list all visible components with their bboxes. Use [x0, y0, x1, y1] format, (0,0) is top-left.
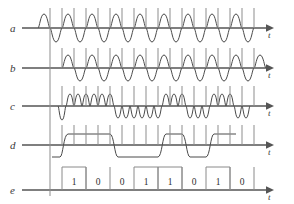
row-label-b: b — [10, 62, 16, 74]
row-label-c: c — [10, 100, 15, 112]
bit-value: 1 — [72, 177, 77, 187]
bit-value: 0 — [240, 177, 245, 187]
bit-value: 0 — [120, 177, 125, 187]
row-label-a: a — [10, 22, 16, 34]
axis-label-b: t — [268, 70, 271, 80]
axis-label-c: t — [268, 108, 271, 118]
axis-label-d: t — [268, 147, 271, 157]
bit-value: 1 — [216, 177, 221, 187]
row-label-e: e — [10, 184, 15, 196]
waveform-c — [58, 94, 250, 120]
bit-value: 0 — [96, 177, 101, 187]
signal-timing-diagram: t a t b t c t d t e 10011010 — [0, 0, 294, 204]
axis-label-e: t — [268, 192, 271, 202]
bit-value: 0 — [192, 177, 197, 187]
bit-cell-group: 10011010 — [62, 167, 254, 190]
row-label-d: d — [10, 139, 16, 151]
bit-value: 1 — [144, 177, 149, 187]
axis-label-a: t — [268, 30, 271, 40]
bit-value: 1 — [168, 177, 173, 187]
